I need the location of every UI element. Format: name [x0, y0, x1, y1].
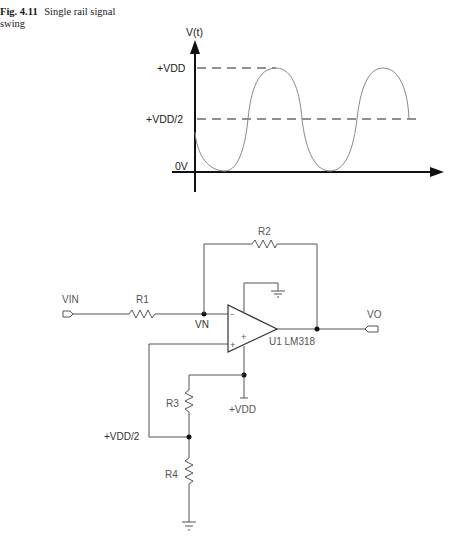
vdd-level-label: +VDD — [157, 62, 186, 74]
vn-node-label: VN — [195, 319, 209, 330]
wire — [204, 244, 252, 314]
ground-icon — [182, 522, 196, 530]
vin-port-icon — [63, 311, 73, 317]
wire — [189, 375, 244, 390]
y-axis-arrowhead-icon — [190, 40, 200, 54]
resistor-r4-label: R4 — [165, 469, 178, 480]
opamp-circuit: VIN R1 VN R2 − + + U1 LM318 VO — [62, 226, 382, 530]
opamp-minus-input-label: − — [230, 310, 235, 319]
diagram-canvas: V(t) +VDD +VDD/2 0V VIN R1 VN R2 − + + U… — [0, 0, 458, 545]
opamp-supply-plus-label: + — [241, 332, 246, 342]
vo-port-icon — [365, 326, 378, 332]
vo-port-label: VO — [367, 309, 382, 320]
ground-icon — [271, 291, 285, 297]
resistor-r1-icon — [129, 310, 157, 318]
vdd-terminal-label: +VDD — [229, 404, 256, 415]
half-vdd-node-label: +VDD/2 — [104, 431, 140, 442]
wire — [277, 244, 317, 329]
resistor-r2-label: R2 — [258, 226, 271, 237]
zero-level-label: 0V — [175, 160, 188, 172]
half-vdd-level-label: +VDD/2 — [146, 113, 183, 125]
waveform-plot: V(t) +VDD +VDD/2 0V — [146, 26, 444, 192]
opamp-plus-input-label: + — [230, 340, 235, 350]
junction-dot — [187, 435, 192, 440]
opamp-part-label: U1 LM318 — [269, 336, 316, 347]
vin-port-label: VIN — [62, 294, 79, 305]
y-axis-label: V(t) — [186, 26, 203, 38]
resistor-r3-label: R3 — [166, 398, 179, 409]
resistor-r4-icon — [185, 458, 193, 485]
resistor-r1-label: R1 — [136, 294, 149, 305]
wire — [244, 283, 278, 312]
junction-dot — [315, 327, 320, 332]
resistor-r3-icon — [185, 390, 193, 413]
x-axis-arrowhead-icon — [430, 167, 444, 177]
resistor-r2-icon — [252, 240, 277, 248]
